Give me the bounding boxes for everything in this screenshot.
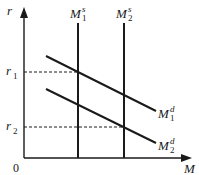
demand-curve-2-label: M d 2 xyxy=(157,136,175,155)
y-axis-arrow-icon xyxy=(20,7,28,18)
svg-text:M: M xyxy=(69,6,82,21)
r2-label: r 2 xyxy=(6,118,18,136)
supply-curve-1-label: M s 1 xyxy=(69,4,87,23)
svg-text:2: 2 xyxy=(170,145,175,155)
y-axis-label: r xyxy=(7,3,13,18)
money-market-diagram: r M 0 r 1 r 2 M s 1 M s 2 M d 1 M d 2 xyxy=(0,0,199,175)
svg-text:M: M xyxy=(157,138,170,153)
svg-text:M: M xyxy=(115,6,128,21)
svg-text:M: M xyxy=(157,106,170,121)
origin-label: 0 xyxy=(13,161,19,175)
svg-text:1: 1 xyxy=(13,71,18,81)
demand-curve-2 xyxy=(46,89,156,143)
r1-label: r 1 xyxy=(6,63,18,81)
svg-text:1: 1 xyxy=(82,13,87,23)
svg-text:r: r xyxy=(6,118,12,133)
demand-curve-1 xyxy=(46,56,156,111)
supply-curve-2-label: M s 2 xyxy=(115,4,133,23)
svg-text:1: 1 xyxy=(170,113,175,123)
x-axis-label: M xyxy=(183,161,196,175)
svg-text:r: r xyxy=(6,63,12,78)
demand-curve-1-label: M d 1 xyxy=(157,104,175,123)
svg-text:2: 2 xyxy=(128,13,133,23)
svg-text:2: 2 xyxy=(13,126,18,136)
